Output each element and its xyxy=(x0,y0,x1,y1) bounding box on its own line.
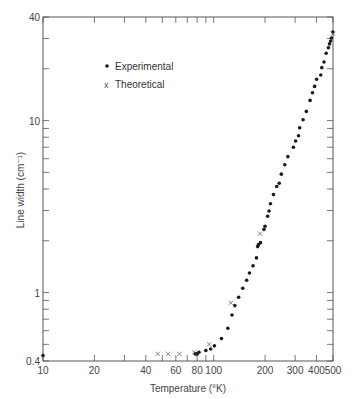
x-axis-tick-labels: 1020406080100200300400500 xyxy=(37,365,341,376)
plot-frame xyxy=(43,17,333,361)
experimental-point xyxy=(324,52,328,56)
experimental-point xyxy=(327,46,331,50)
x-tick-label: 80 xyxy=(192,365,204,376)
experimental-point xyxy=(283,163,287,167)
experimental-point xyxy=(220,337,224,341)
experimental-point xyxy=(233,304,237,308)
experimental-point xyxy=(248,271,252,275)
experimental-point xyxy=(41,354,45,358)
experimental-point xyxy=(213,344,217,348)
experimental-point xyxy=(298,126,302,130)
experimental-point xyxy=(255,256,259,260)
theoretical-point xyxy=(258,231,262,235)
y-tick-label: 40 xyxy=(29,12,41,23)
experimental-point xyxy=(267,209,271,213)
experimental-point xyxy=(237,295,241,299)
legend: Experimental x Theoretical xyxy=(104,61,173,90)
experimental-point xyxy=(197,350,201,354)
y-tick-label: 1 xyxy=(34,288,40,299)
experimental-point xyxy=(204,349,208,353)
experimental-point xyxy=(241,286,245,290)
experimental-point xyxy=(275,185,279,189)
experimental-point xyxy=(322,60,326,64)
theoretical-point xyxy=(207,342,211,346)
y-axis-title: Line width (cm⁻¹) xyxy=(15,152,26,228)
theoretical-point xyxy=(177,352,181,356)
experimental-point xyxy=(308,99,312,103)
experimental-point xyxy=(301,118,305,122)
experimental-series xyxy=(41,30,334,357)
theoretical-point xyxy=(166,352,170,356)
theoretical-point xyxy=(156,352,160,356)
legend-x-marker-icon: x xyxy=(104,80,109,90)
experimental-point xyxy=(292,145,296,149)
legend-label-theoretical: Theoretical xyxy=(115,79,164,90)
x-tick-label: 20 xyxy=(89,365,101,376)
experimental-point xyxy=(262,228,266,232)
experimental-point xyxy=(209,347,213,351)
experimental-point xyxy=(313,85,317,89)
experimental-point xyxy=(319,73,323,77)
x-tick-label: 40 xyxy=(140,365,152,376)
x-tick-label: 100 xyxy=(205,365,222,376)
x-tick-label: 300 xyxy=(287,365,304,376)
theoretical-point xyxy=(229,301,233,305)
x-tick-label: 200 xyxy=(257,365,274,376)
x-axis-ticks xyxy=(43,17,333,361)
x-axis-title: Temperature (°K) xyxy=(150,383,226,394)
experimental-point xyxy=(330,36,334,40)
y-axis-ticks xyxy=(43,17,333,361)
experimental-point xyxy=(259,241,263,245)
legend-dot-marker-icon xyxy=(105,64,109,68)
experimental-point xyxy=(280,172,284,176)
theoretical-series xyxy=(156,31,336,356)
experimental-point xyxy=(230,313,234,317)
experimental-point xyxy=(315,77,319,81)
experimental-point xyxy=(266,214,270,218)
experimental-point xyxy=(305,110,309,114)
experimental-point xyxy=(297,134,301,138)
experimental-point xyxy=(251,264,255,268)
experimental-point xyxy=(272,193,276,197)
x-tick-label: 500 xyxy=(325,365,342,376)
y-tick-label: 0.4 xyxy=(26,356,40,367)
experimental-point xyxy=(286,155,290,159)
experimental-point xyxy=(311,91,315,95)
experimental-point xyxy=(294,139,298,143)
plot-border xyxy=(43,17,333,361)
experimental-point xyxy=(245,278,249,282)
experimental-point xyxy=(269,202,273,206)
x-tick-label: 400 xyxy=(308,365,325,376)
line-width-vs-temperature-chart: 1020406080100200300400500 0.411040 Tempe… xyxy=(0,0,356,399)
experimental-point xyxy=(277,181,281,185)
experimental-point xyxy=(329,39,333,43)
x-tick-label: 60 xyxy=(170,365,182,376)
experimental-point xyxy=(263,224,267,228)
y-tick-label: 10 xyxy=(29,116,41,127)
experimental-point xyxy=(226,326,230,330)
experimental-point xyxy=(320,66,324,70)
legend-label-experimental: Experimental xyxy=(115,61,173,72)
y-axis-tick-labels: 0.411040 xyxy=(26,12,40,367)
